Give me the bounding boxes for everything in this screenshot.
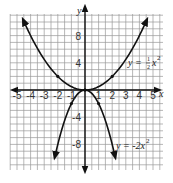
eq1-numerator: 1	[147, 56, 150, 62]
x-tick-label: -4	[26, 90, 35, 101]
y-axis-label: y	[76, 5, 82, 16]
x-tick-label: -3	[40, 90, 49, 101]
eq2-exponent: 2	[146, 137, 150, 145]
x-tick-label: 2	[109, 90, 115, 101]
y-tick-label: -4	[72, 112, 81, 123]
x-tick-label: -5	[13, 90, 22, 101]
eq2-text: y = -2x	[115, 140, 146, 151]
equation-label-neg-2x-squared: y = -2x 2	[115, 137, 150, 151]
y-tick-label: 4	[75, 58, 81, 69]
equation-label-half-x-squared: y = 1 2 x 2	[127, 54, 161, 70]
eq1-exponent: 2	[157, 54, 161, 62]
y-tick-label: 8	[75, 31, 81, 42]
eq1-prefix: y =	[127, 57, 142, 68]
x-tick-label: 4	[137, 90, 143, 101]
x-axis-label: x	[158, 88, 164, 99]
x-tick-label: 1	[96, 90, 102, 101]
parabola-graph: -5-4-3-2-112345 84-4-8 x y y = 1 2 x 2 y…	[0, 0, 173, 183]
y-tick-label: -8	[72, 139, 81, 150]
x-tick-label: -1	[67, 90, 76, 101]
eq1-denominator: 2	[147, 64, 150, 70]
x-tick-label: -2	[53, 90, 62, 101]
x-tick-label: 3	[123, 90, 129, 101]
x-tick-label: 5	[150, 90, 156, 101]
